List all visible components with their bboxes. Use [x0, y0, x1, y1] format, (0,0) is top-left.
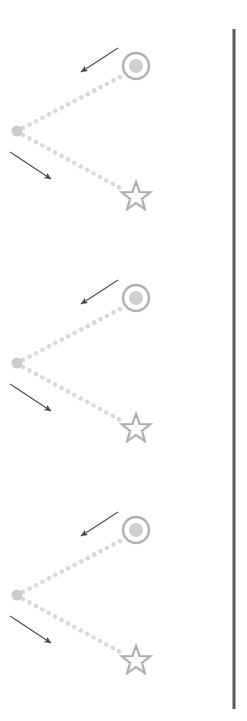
diagram-stage	[0, 0, 247, 721]
vertex-dot-icon	[12, 590, 23, 601]
vertex-dot-icon	[12, 126, 23, 137]
marker-group	[10, 512, 150, 673]
connector-lower-dotted-line	[23, 135, 124, 190]
connector-upper-dotted-line	[23, 308, 122, 360]
groups-layer	[10, 48, 150, 673]
star-marker-icon	[122, 414, 151, 441]
arrow-lower-pointer-icon	[10, 152, 51, 179]
arrow-upper-pointer-icon	[81, 512, 118, 536]
connector-lower-dotted-line	[23, 367, 124, 422]
circle-marker-core-icon	[129, 523, 143, 537]
connector-upper-dotted-line	[23, 540, 122, 592]
circle-marker-core-icon	[129, 291, 143, 305]
arrow-upper-pointer-icon	[81, 48, 118, 72]
circle-marker-core-icon	[129, 59, 143, 73]
marker-group	[10, 280, 150, 441]
arrow-upper-pointer-icon	[81, 280, 118, 304]
connector-upper-dotted-line	[23, 76, 122, 128]
marker-group	[10, 48, 150, 209]
star-marker-icon	[122, 182, 151, 209]
arrow-lower-pointer-icon	[10, 616, 51, 643]
arrow-lower-pointer-icon	[10, 384, 51, 411]
connector-lower-dotted-line	[23, 599, 124, 654]
vertex-dot-icon	[12, 358, 23, 369]
diagram-canvas	[0, 0, 247, 721]
star-marker-icon	[122, 646, 151, 673]
